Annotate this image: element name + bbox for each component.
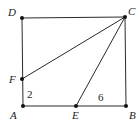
- label-f: F: [8, 73, 16, 85]
- segment-cd: [22, 17, 125, 18]
- point-b: [124, 104, 128, 108]
- segment-bc: [125, 17, 126, 106]
- point-a: [21, 104, 25, 108]
- segment-da: [22, 18, 23, 106]
- measure-af: 2: [27, 88, 33, 100]
- label-e: E: [71, 109, 79, 121]
- point-c: [123, 15, 127, 19]
- label-d: D: [7, 6, 16, 18]
- label-a: A: [9, 109, 17, 121]
- geometry-figure: D C F A E B 2 6: [0, 0, 140, 122]
- segment-cf: [22, 17, 125, 79]
- label-b: B: [129, 109, 136, 121]
- point-f: [20, 77, 24, 81]
- label-c: C: [128, 5, 136, 17]
- measure-eb: 6: [98, 91, 104, 103]
- point-e: [74, 104, 78, 108]
- point-d: [20, 16, 24, 20]
